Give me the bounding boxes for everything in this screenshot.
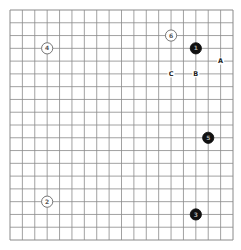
white-stone-4: 4: [42, 43, 53, 54]
point-mark-b: B: [192, 70, 199, 78]
move-number: 4: [45, 44, 49, 51]
black-stone-3: 3: [190, 209, 201, 220]
mark-label: A: [218, 57, 223, 65]
white-stone-6: 6: [165, 30, 176, 41]
white-stone-2: 2: [42, 196, 53, 207]
go-board: ABC 123456: [0, 0, 241, 250]
move-number: 2: [45, 198, 49, 205]
black-stone-1: 1: [190, 43, 201, 54]
move-number: 5: [206, 134, 210, 141]
mark-label: C: [169, 70, 174, 78]
move-number: 3: [194, 211, 198, 218]
mark-label: B: [193, 70, 198, 78]
point-mark-c: C: [168, 70, 175, 78]
move-number: 6: [169, 32, 173, 39]
move-number: 1: [194, 44, 198, 51]
black-stone-5: 5: [203, 132, 214, 143]
point-mark-a: A: [217, 57, 224, 65]
